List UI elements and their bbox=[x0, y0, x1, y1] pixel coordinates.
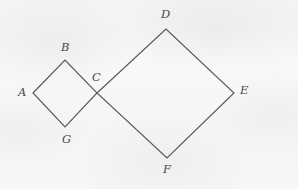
vertex-label-e: E bbox=[240, 85, 248, 97]
small-square-ABCG bbox=[33, 60, 97, 127]
figure-container: A B C D E F G bbox=[0, 0, 298, 189]
small-square-outline bbox=[33, 60, 97, 127]
geometry-diagram bbox=[0, 0, 298, 189]
vertex-label-d: D bbox=[161, 9, 170, 21]
vertex-label-f: F bbox=[163, 164, 171, 176]
vertex-label-b: B bbox=[61, 42, 69, 54]
vertex-label-a: A bbox=[18, 87, 26, 99]
vertex-label-g: G bbox=[62, 134, 71, 146]
large-square-outline bbox=[97, 29, 234, 158]
large-square-CDEF bbox=[97, 29, 234, 158]
vertex-label-c: C bbox=[92, 72, 101, 84]
